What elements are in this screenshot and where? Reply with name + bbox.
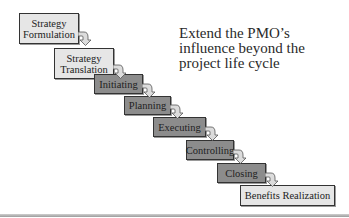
step-label: Controlling <box>186 145 234 156</box>
step-strategy-formulation: StrategyFormulation <box>19 13 79 44</box>
curved-arrow-icon <box>78 30 92 46</box>
step-benefits-realization: Benefits Realization <box>240 185 335 206</box>
step-label: Executing <box>158 122 201 133</box>
step-label: Closing <box>225 168 258 179</box>
step-controlling: Controlling <box>186 140 234 160</box>
callout-text: Extend the PMO’s influence beyond the pr… <box>179 26 305 71</box>
curved-arrow-icon <box>205 125 219 141</box>
step-label: StrategyFormulation <box>23 18 75 40</box>
step-label: StrategyTranslation <box>60 53 107 75</box>
step-label: Planning <box>129 100 166 111</box>
step-closing: Closing <box>217 163 266 183</box>
curved-arrow-icon <box>170 103 184 119</box>
step-executing: Executing <box>153 117 206 137</box>
curved-arrow-icon <box>265 171 279 187</box>
curved-arrow-icon <box>233 148 247 164</box>
step-planning: Planning <box>124 96 171 115</box>
step-label: Initiating <box>99 79 138 90</box>
curved-arrow-icon <box>142 82 156 98</box>
step-label: Benefits Realization <box>245 190 330 201</box>
bottom-divider <box>0 214 349 217</box>
curved-arrow-icon <box>113 63 127 79</box>
